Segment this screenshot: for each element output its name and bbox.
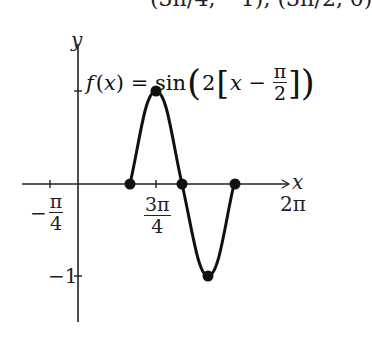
point-pi <box>177 179 188 190</box>
point-pi-2 <box>125 179 136 190</box>
y-axis-label: y <box>71 28 82 52</box>
point-min <box>203 271 214 282</box>
function-label: f(x) = sin ( 2 [ x − π2 ] ) <box>86 62 315 103</box>
x-tick-label-3pi-4: 3π4 <box>144 192 171 236</box>
point-3pi-2 <box>230 179 241 190</box>
x-tick-label-neg-pi-4: − π4 <box>30 192 63 233</box>
y-tick-label-neg-1: −1 <box>48 264 77 288</box>
x-axis-label: x <box>292 170 303 194</box>
x-tick-label-2pi: 2π <box>280 192 306 216</box>
